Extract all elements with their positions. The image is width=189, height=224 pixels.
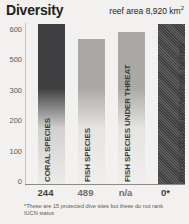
y-tick-500: 500 xyxy=(9,55,22,64)
y-tick-600: 600 xyxy=(9,25,22,34)
bar-group: CORAL SPECIES FISH SPECIES FISH SPECIES … xyxy=(25,23,189,185)
bar-label-coral-species: CORAL SPECIES xyxy=(43,118,52,182)
y-tick-0: 0 xyxy=(18,177,22,186)
footnote-line-2: IUCN status xyxy=(24,210,186,217)
value-fish-species-under-threat: n/a xyxy=(105,187,146,198)
bar-label-fish-species: FISH SPECIES xyxy=(83,128,92,182)
y-tick-200: 200 xyxy=(9,116,22,125)
bar-label-protected-reefs-marine-parks: PROTECTED REEFS/MARINE PARKS xyxy=(177,43,186,182)
chart-header: Diversity reef area 8,920 km2 xyxy=(0,0,189,23)
y-axis-tick-labels: 600 500 300 200 100 0 xyxy=(0,23,25,186)
footnote: *These are 15 protected dive sites but t… xyxy=(24,203,186,217)
y-tick-100: 100 xyxy=(9,147,22,156)
value-protected-reefs-marine-parks: 0* xyxy=(145,187,186,198)
value-coral-species: 244 xyxy=(25,187,66,198)
reef-area-text: reef area 8,920 km xyxy=(109,6,180,16)
footnote-line-1: *These are 15 protected dive sites but t… xyxy=(24,203,186,210)
x-axis-baseline xyxy=(25,184,185,185)
value-fish-species: 489 xyxy=(65,187,106,198)
y-tick-300: 300 xyxy=(9,86,22,95)
bar-values-row: 244 489 n/a 0* xyxy=(25,187,189,200)
reef-area-unit-exponent: 2 xyxy=(181,5,184,11)
bar-label-fish-species-under-threat: FISH SPECIES UNDER THREAT xyxy=(123,65,132,182)
page-title: Diversity xyxy=(6,2,63,18)
plot-area: 600 500 300 200 100 0 CORAL SPECIES FISH… xyxy=(0,23,189,186)
reef-area-label: reef area 8,920 km2 xyxy=(109,5,184,16)
diversity-chart-card: Diversity reef area 8,920 km2 600 500 30… xyxy=(0,0,189,224)
